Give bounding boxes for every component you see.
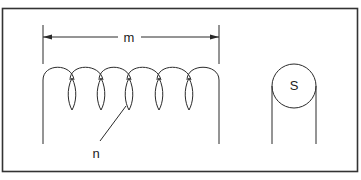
coil-diagram: m n S [0, 0, 361, 180]
coil-loop-5 [185, 78, 193, 110]
arrowhead-right-icon [210, 35, 219, 40]
coil-loop-4 [155, 78, 163, 110]
length-label: m [124, 30, 135, 45]
turn-leader-line [100, 106, 126, 141]
coil-turn-2 [70, 67, 103, 80]
cross-section [272, 64, 316, 144]
coil-turn-6 [187, 67, 219, 80]
arrowhead-left-icon [43, 35, 52, 40]
coil-loop-3 [125, 78, 133, 110]
coil-turn-1 [43, 67, 74, 80]
coil-turn-4 [127, 67, 161, 80]
coil-turn-5 [157, 67, 191, 80]
coil-spring [43, 67, 219, 144]
coil-loop-1 [68, 78, 76, 110]
coil-loop-2 [97, 78, 105, 110]
cross-section-label: S [290, 78, 299, 93]
diagram-frame [3, 9, 358, 172]
coil-turn-3 [99, 67, 131, 80]
turn-label: n [92, 146, 99, 161]
